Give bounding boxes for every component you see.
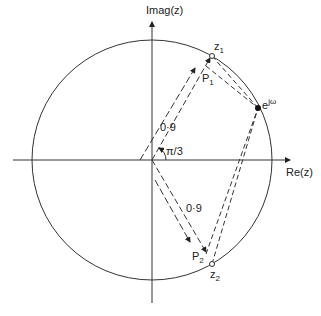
zero-z2 <box>210 262 215 267</box>
real-axis-label: Re(z) <box>286 166 313 178</box>
radius-lower-label: 0·9 <box>186 202 202 214</box>
angle-arc <box>159 148 166 160</box>
radius-lower-arrow <box>155 180 190 242</box>
point-ejw <box>255 105 261 111</box>
imag-axis-label: Imag(z) <box>146 4 183 16</box>
p2-label: P2 <box>192 250 204 267</box>
z1-label: z1 <box>214 40 224 57</box>
angle-label: π/3 <box>166 145 183 157</box>
diagram-canvas <box>0 0 321 316</box>
z-plane-diagram: Imag(z) Re(z) z1 P1 ejω P2 z2 0·9 0·9 π/… <box>0 0 321 316</box>
z2-label: z2 <box>210 268 220 285</box>
ejw-label: ejω <box>262 96 276 111</box>
radius-upper-label: 0·9 <box>160 121 176 133</box>
p1-label: P1 <box>202 72 214 89</box>
